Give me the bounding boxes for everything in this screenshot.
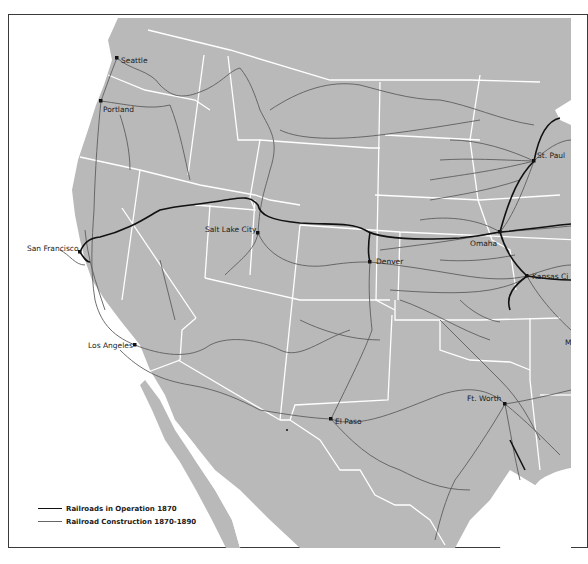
city-kansas-city: Kansas Ci bbox=[525, 272, 568, 281]
svg-text:Denver: Denver bbox=[376, 257, 404, 266]
legend-item-operation: Railroads in Operation 1870 bbox=[38, 502, 196, 515]
partial-label-m: M bbox=[565, 338, 571, 347]
map-dot bbox=[286, 429, 288, 431]
svg-text:Seattle: Seattle bbox=[121, 56, 148, 65]
legend-item-construction: Railroad Construction 1870-1890 bbox=[38, 515, 196, 528]
svg-text:Portland: Portland bbox=[103, 105, 134, 114]
svg-text:Los Angeles: Los Angeles bbox=[88, 341, 133, 350]
legend-label-operation: Railroads in Operation 1870 bbox=[66, 505, 177, 513]
svg-text:Omaha: Omaha bbox=[470, 239, 497, 248]
city-salt-lake-city: Salt Lake City bbox=[205, 225, 260, 235]
svg-text:Salt Lake City: Salt Lake City bbox=[205, 225, 257, 234]
svg-text:St. Paul: St. Paul bbox=[537, 151, 565, 160]
svg-text:Ft. Worth: Ft. Worth bbox=[467, 394, 502, 403]
city-san-francisco: San Francisco bbox=[27, 244, 82, 254]
legend-swatch-construction bbox=[38, 521, 62, 522]
legend-swatch-operation bbox=[38, 508, 62, 510]
svg-text:San Francisco: San Francisco bbox=[27, 244, 79, 253]
land-mass bbox=[72, 18, 571, 548]
city-los-angeles: Los Angeles bbox=[88, 341, 137, 350]
svg-text:El Paso: El Paso bbox=[335, 417, 362, 426]
svg-text:Kansas Ci: Kansas Ci bbox=[532, 272, 568, 281]
legend-label-construction: Railroad Construction 1870-1890 bbox=[66, 518, 196, 526]
legend: Railroads in Operation 1870 Railroad Con… bbox=[38, 502, 196, 528]
